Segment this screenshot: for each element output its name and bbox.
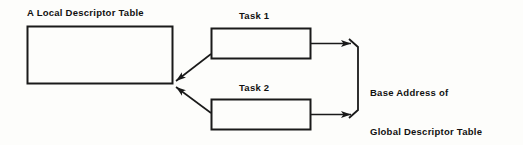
box-local-descriptor-table: [28, 27, 173, 84]
arrow-task1-to-ldt: [176, 54, 211, 81]
box-task-1: [212, 29, 311, 59]
diagram-canvas: A Local Descriptor Table Task 1 Task 2 B…: [0, 0, 523, 145]
arrow-task2-to-ldt: [176, 87, 211, 113]
base-address-line-2: Global Descriptor Table: [370, 125, 482, 138]
base-address-line-1: Base Address of: [370, 86, 482, 99]
label-local-descriptor-table: A Local Descriptor Table: [27, 6, 144, 19]
label-task-2: Task 2: [239, 81, 269, 94]
label-base-address-note: Base Address of Global Descriptor Table: [370, 60, 482, 145]
brace-base-address: [349, 39, 358, 118]
box-task-2: [212, 100, 311, 130]
label-task-1: Task 1: [239, 9, 269, 22]
